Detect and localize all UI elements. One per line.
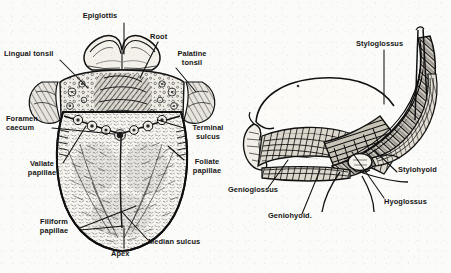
geniohyoid-muscle	[262, 167, 350, 181]
label-geniohyoid: Geniohyoid.	[268, 212, 312, 221]
label-terminal-sulcus: Terminal sulcus	[185, 124, 231, 141]
label-styloglossus: Styloglossus	[356, 40, 403, 49]
label-hyoglossus: Hyoglossus	[384, 198, 427, 207]
label-lingual-tonsil: Lingual tonsil	[4, 50, 53, 59]
tongue-musculature-drawing	[232, 0, 451, 273]
label-genioglossus: Genioglossus	[228, 186, 270, 195]
label-root: Root	[150, 33, 167, 42]
label-foliate-papillae: Foliate papillae	[185, 158, 229, 175]
panel-tongue-musculature: Styloglossus Stylohyold Hyoglossus Genio…	[232, 0, 451, 273]
label-median-sulcus: Median sulcus	[148, 238, 200, 247]
label-stylohyoid: Stylohyold	[398, 166, 437, 175]
label-vallate-papillae: Vallate papillae	[20, 160, 64, 177]
label-apex: Apex	[111, 250, 129, 259]
anatomy-figure: Epiglottis Root Lingual tonsil Palatine …	[0, 0, 451, 273]
label-epiglottis: Epiglottis	[74, 12, 126, 21]
label-palatine-tonsil: Palatine tonsil	[169, 50, 215, 67]
epiglottis-structure	[84, 36, 160, 70]
label-foramen-caecum: Foramen caecum	[6, 115, 38, 132]
panel-dorsum-of-tongue: Epiglottis Root Lingual tonsil Palatine …	[0, 0, 232, 273]
label-filiform-papillae: Filiform papillae	[30, 218, 78, 235]
